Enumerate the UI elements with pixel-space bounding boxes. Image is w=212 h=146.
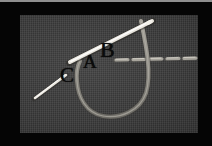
photograph: A B C (20, 15, 198, 133)
photo-frame: A B C (0, 2, 212, 146)
point-label-c: C (60, 65, 74, 86)
stitch-illustration (20, 15, 198, 133)
figure-root: A B C (0, 0, 212, 146)
point-label-a: A (83, 52, 97, 71)
running-stitch-line (115, 57, 198, 60)
point-label-b: B (100, 39, 115, 61)
